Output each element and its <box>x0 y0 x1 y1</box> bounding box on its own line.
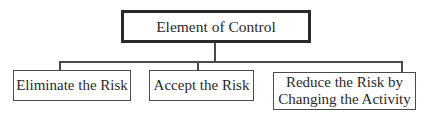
connector-root-down <box>214 43 216 62</box>
connector-drop-child-1 <box>59 61 61 70</box>
child-node-eliminate-the-risk: Eliminate the Risk <box>13 70 131 101</box>
root-node-element-of-control: Element of Control <box>121 10 311 43</box>
diagram-canvas: Element of Control Eliminate the Risk Ac… <box>0 0 429 118</box>
child-node-label: Accept the Risk <box>154 77 250 94</box>
child-node-label-line-1: Reduce the Risk by <box>286 74 403 91</box>
connector-drop-child-3 <box>401 61 403 72</box>
root-node-label: Element of Control <box>156 18 276 35</box>
child-node-label-line-2: Changing the Activity <box>278 91 411 108</box>
connector-horizontal-bus <box>59 61 402 63</box>
child-node-accept-the-risk: Accept the Risk <box>149 70 254 101</box>
connector-drop-child-2 <box>197 61 199 70</box>
child-node-reduce-the-risk: Reduce the Risk by Changing the Activity <box>273 72 416 110</box>
child-node-label: Eliminate the Risk <box>16 77 128 94</box>
